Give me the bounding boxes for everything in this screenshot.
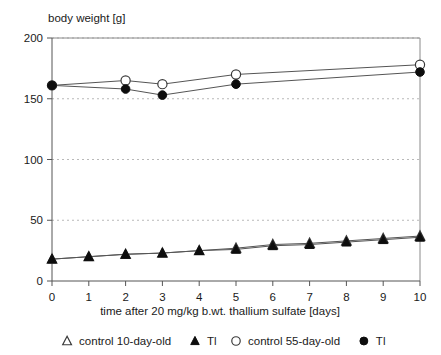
legend-entry-3: Tl xyxy=(360,335,386,347)
data-point-open-triangle xyxy=(63,336,72,345)
x-tick-label-4: 4 xyxy=(196,291,203,303)
series-markers-1 xyxy=(47,232,424,263)
legend-label-0: control 10-day-old xyxy=(79,335,171,347)
y-tick-label-200: 200 xyxy=(24,32,43,44)
body-weight-chart: 050100150200 012345678910 body weight [g… xyxy=(0,0,441,355)
data-point-open-circle xyxy=(121,76,130,85)
x-tick-label-5: 5 xyxy=(233,291,239,303)
x-tick-label-7: 7 xyxy=(306,291,312,303)
x-tick-label-1: 1 xyxy=(86,291,92,303)
y-tick-label-100: 100 xyxy=(24,154,43,166)
legend-entry-0: control 10-day-old xyxy=(63,335,171,347)
data-point-filled-circle xyxy=(232,80,241,89)
data-point-filled-triangle xyxy=(191,336,199,344)
data-point-filled-circle xyxy=(360,337,368,345)
data-point-filled-circle xyxy=(158,91,167,100)
legend-label-3: Tl xyxy=(376,335,386,347)
x-tick-label-0: 0 xyxy=(49,291,55,303)
legend-label-2: control 55-day-old xyxy=(248,335,340,347)
x-tick-label-10: 10 xyxy=(414,291,427,303)
y-axis-tick-labels: 050100150200 xyxy=(24,32,43,287)
y-tick-label-50: 50 xyxy=(30,214,43,226)
x-tick-label-8: 8 xyxy=(343,291,349,303)
chart-title: body weight [g] xyxy=(48,12,125,24)
chart-legend: control 10-day-oldTlcontrol 55-day-oldTl xyxy=(63,335,386,347)
y-tick-label-0: 0 xyxy=(37,275,43,287)
data-series-group xyxy=(47,60,425,263)
x-axis-tick-labels: 012345678910 xyxy=(49,291,427,303)
chart-canvas: 050100150200 012345678910 body weight [g… xyxy=(0,0,441,355)
legend-label-1: Tl xyxy=(207,335,217,347)
y-tick-label-150: 150 xyxy=(24,93,43,105)
data-point-filled-circle xyxy=(416,68,425,77)
data-point-open-circle xyxy=(158,80,167,89)
x-axis-title: time after 20 mg/kg b.wt. thallium sulfa… xyxy=(100,305,340,317)
legend-entry-2: control 55-day-old xyxy=(232,335,340,347)
data-point-filled-circle xyxy=(48,81,57,90)
x-tick-label-9: 9 xyxy=(380,291,386,303)
x-tick-label-3: 3 xyxy=(159,291,165,303)
gridlines-group xyxy=(52,38,420,220)
data-point-filled-circle xyxy=(121,85,130,94)
data-point-open-circle xyxy=(231,70,240,79)
x-tick-label-6: 6 xyxy=(270,291,276,303)
x-tick-label-2: 2 xyxy=(122,291,128,303)
legend-entry-1: Tl xyxy=(191,335,217,347)
data-point-open-circle xyxy=(232,337,240,345)
